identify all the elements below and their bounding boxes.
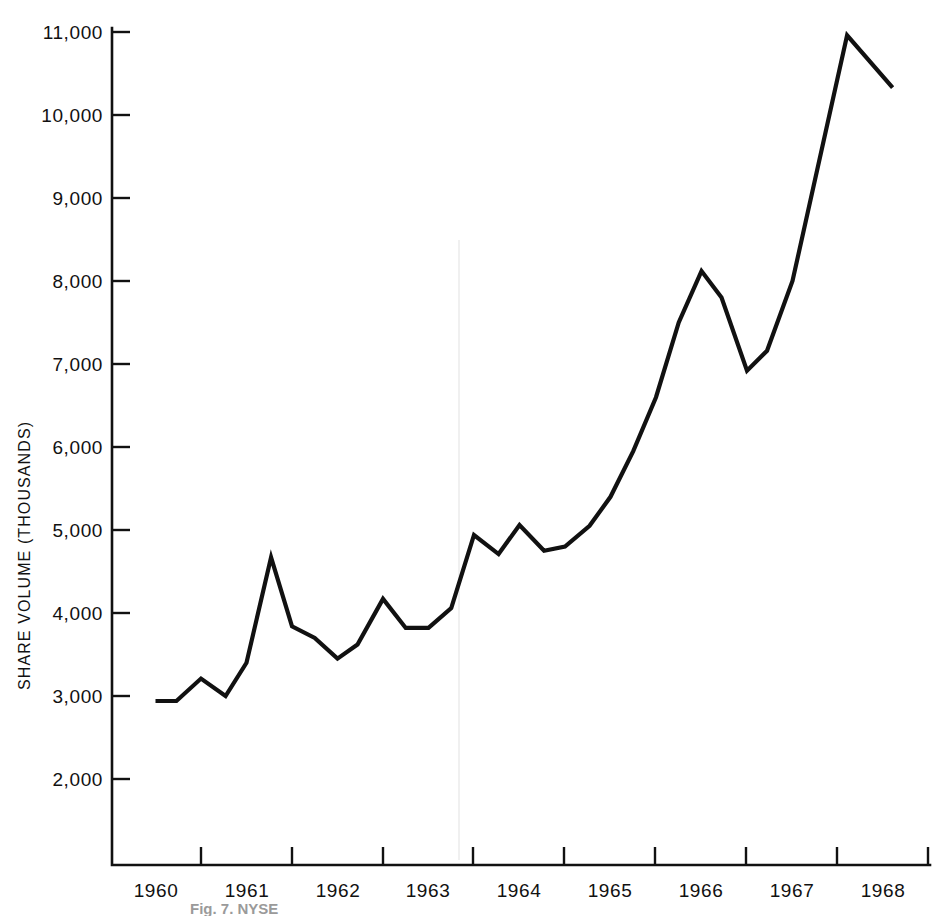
y-tick-label: 11,000	[43, 22, 103, 43]
x-tick-label: 1961	[225, 880, 270, 901]
x-axis-ticks	[201, 847, 928, 865]
x-axis-tick-labels: 1960 1961 1962 1963 1964 1965 1966 1967 …	[134, 880, 906, 901]
axis-lines	[112, 28, 930, 865]
y-axis-label: SHARE VOLUME (THOUSANDS)	[16, 421, 33, 690]
y-tick-label: 6,000	[52, 437, 103, 458]
y-axis-ticks	[112, 32, 130, 779]
x-tick-label: 1967	[770, 880, 815, 901]
x-tick-label: 1968	[861, 880, 906, 901]
y-tick-label: 9,000	[52, 188, 103, 209]
y-tick-label: 7,000	[52, 354, 103, 375]
x-tick-label: 1962	[316, 880, 361, 901]
y-tick-label: 2,000	[52, 769, 103, 790]
x-tick-label: 1964	[497, 880, 542, 901]
x-tick-label: 1966	[679, 880, 724, 901]
x-tick-label: 1965	[588, 880, 633, 901]
y-tick-label: 4,000	[52, 603, 103, 624]
figure-container: SHARE VOLUME (THOUSANDS) 11,000 10,000 9…	[0, 0, 944, 916]
x-tick-label: 1960	[134, 880, 179, 901]
y-tick-label: 5,000	[52, 520, 103, 541]
y-tick-label: 3,000	[52, 686, 103, 707]
y-tick-label: 8,000	[52, 271, 103, 292]
y-axis-tick-labels: 11,000 10,000 9,000 8,000 7,000 6,000 5,…	[41, 22, 103, 790]
data-series-line	[156, 35, 893, 701]
figure-caption: Fig. 7. NYSE	[190, 900, 278, 916]
y-tick-label: 10,000	[41, 105, 103, 126]
line-chart: SHARE VOLUME (THOUSANDS) 11,000 10,000 9…	[0, 0, 944, 916]
x-tick-label: 1963	[406, 880, 451, 901]
